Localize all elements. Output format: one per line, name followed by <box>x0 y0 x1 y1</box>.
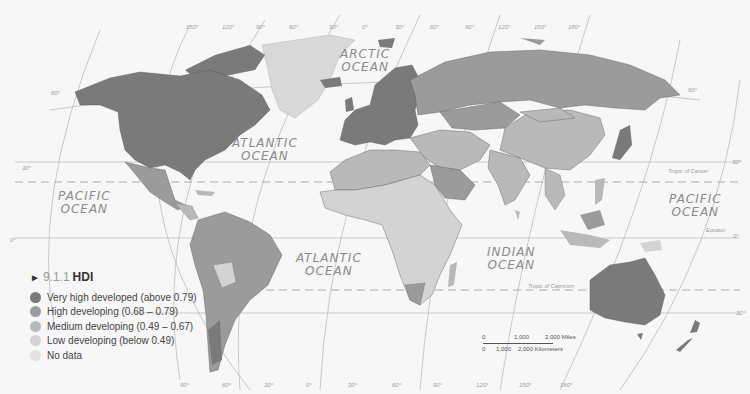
tropic-of-capricorn-label: Tropic of Capricorn <box>528 283 574 289</box>
lon-label-top-6: 30° <box>395 24 404 30</box>
ocean-label-indian: INDIANOCEAN <box>487 246 535 272</box>
lat-label-60-right: 60° <box>688 87 697 93</box>
lon-label-top-8: 90° <box>465 24 474 30</box>
legend-item-very-high: Very high developed (above 0.79) <box>30 290 197 305</box>
legend-title: ► 9.1.1 HDI <box>30 270 197 284</box>
equator-label: Equator <box>706 227 725 233</box>
scale-miles-2000: 2,000 Miles <box>545 334 576 340</box>
legend-swatch-very-high <box>30 292 41 303</box>
legend-label: No data <box>47 350 82 361</box>
tropic-of-cancer-label: Tropic of Cancer <box>668 168 708 174</box>
lon-label-top-11: 180° <box>568 24 580 30</box>
lat-label-0-right: 0° <box>733 233 739 239</box>
south-america <box>190 212 282 372</box>
legend-item-no-data: No data <box>30 348 197 363</box>
russia <box>410 50 680 115</box>
ocean-label-atlantic-north: ATLANTICOCEAN <box>232 137 298 163</box>
lat-label-30-left: 30° <box>22 165 31 171</box>
legend-item-high: High developing (0.68 – 0.79) <box>30 305 197 320</box>
legend-swatch-low <box>30 335 41 346</box>
legend-swatch-medium <box>30 321 41 332</box>
lon-label-bottom-0: 90° <box>180 382 189 388</box>
legend-title-text: HDI <box>73 270 94 284</box>
ocean-label-pacific-west: PACIFICOCEAN <box>58 190 111 216</box>
lon-label-top-5: 0° <box>362 24 368 30</box>
legend-label: Medium developing (0.49 – 0.67) <box>47 321 193 332</box>
lon-label-top-10: 150° <box>534 24 546 30</box>
new-zealand <box>676 320 700 352</box>
lon-label-top-7: 60° <box>430 24 439 30</box>
legend-section-number: 9.1.1 <box>43 270 70 284</box>
legend-label: Very high developed (above 0.79) <box>47 292 197 303</box>
lon-label-bottom-4: 30° <box>348 382 357 388</box>
scale-km-2000: 2,000 Kilometers <box>518 346 563 352</box>
ocean-label-atlantic-south: ATLANTICOCEAN <box>296 252 362 278</box>
lon-label-bottom-3: 0° <box>306 382 312 388</box>
lon-label-top-0: 150° <box>186 24 198 30</box>
lon-label-top-9: 120° <box>498 24 510 30</box>
australia <box>590 258 665 325</box>
hdi-legend: ► 9.1.1 HDI Very high developed (above 0… <box>30 270 197 363</box>
lon-label-bottom-6: 90° <box>433 382 442 388</box>
legend-label: High developing (0.68 – 0.79) <box>47 306 178 317</box>
scale-line <box>483 343 553 344</box>
lon-label-bottom-9: 180° <box>560 382 572 388</box>
africa <box>320 175 462 305</box>
legend-item-medium: Medium developing (0.49 – 0.67) <box>30 319 197 334</box>
lat-label-30-right: 30° <box>732 159 741 165</box>
ocean-label-pacific-east: PACIFICOCEAN <box>669 193 722 219</box>
north-america <box>75 70 270 180</box>
scale-miles-1000: 1,000 <box>514 334 529 340</box>
lon-label-top-3: 60° <box>289 24 298 30</box>
lon-label-bottom-1: 60° <box>222 382 231 388</box>
lon-label-bottom-2: 30° <box>264 382 273 388</box>
scale-miles-0: 0 <box>482 334 485 340</box>
arrow-right-icon: ► <box>30 272 40 283</box>
legend-swatch-high <box>30 306 41 317</box>
legend-item-low: Low developing (below 0.49) <box>30 334 197 349</box>
legend-label: Low developing (below 0.49) <box>47 335 174 346</box>
lon-label-top-4: 30° <box>329 24 338 30</box>
lat-label-60-left: 60° <box>51 90 60 96</box>
legend-swatch-no-data <box>30 350 41 361</box>
lat-label-m30-right: 30° <box>736 310 745 316</box>
scale-km-1000: 1,000 <box>496 346 511 352</box>
lon-label-bottom-5: 60° <box>392 382 401 388</box>
lat-label-0-left: 0° <box>10 237 16 243</box>
ocean-label-arctic: ARCTICOCEAN <box>340 48 390 74</box>
lon-label-top-2: 90° <box>256 24 265 30</box>
lon-label-bottom-8: 150° <box>519 382 531 388</box>
scale-km-0: 0 <box>482 346 485 352</box>
lon-label-top-1: 120° <box>222 24 234 30</box>
scale-bar: 0 1,000 2,000 Miles 0 1,000 2,000 Kilome… <box>482 334 592 358</box>
lon-label-bottom-7: 120° <box>476 382 488 388</box>
